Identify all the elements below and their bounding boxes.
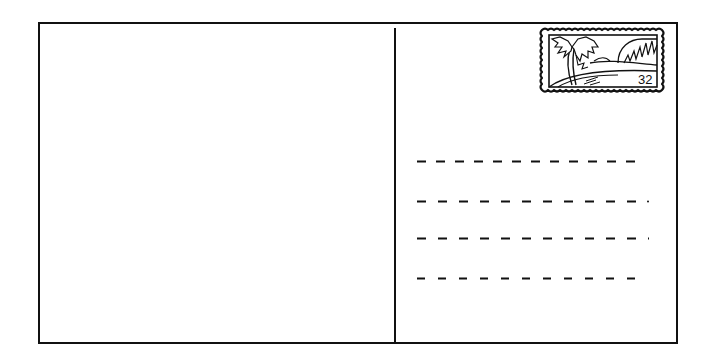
address-line-2[interactable] (417, 200, 649, 203)
message-area[interactable] (40, 24, 394, 342)
beach-palm-trees-stamp-icon: 32 (538, 25, 668, 97)
postcard-divider (394, 28, 396, 342)
stamp-value: 32 (638, 72, 652, 87)
postage-stamp: 32 (538, 25, 668, 97)
address-line-4[interactable] (417, 277, 649, 280)
postcard: 32 (38, 22, 678, 344)
address-line-3[interactable] (417, 237, 649, 240)
address-line-1[interactable] (417, 160, 649, 163)
